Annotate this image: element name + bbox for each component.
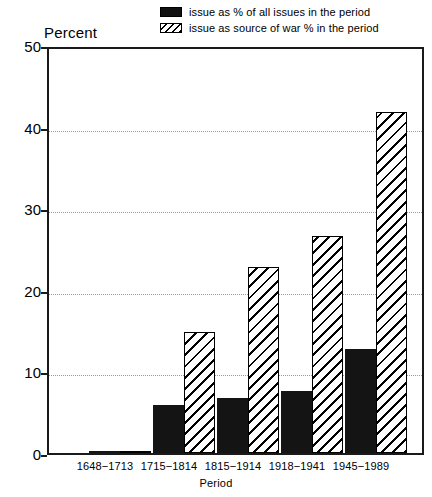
y-tick-label: 10 — [11, 364, 41, 381]
bar-solid-1815-1914 — [217, 398, 248, 453]
legend-entry-solid: issue as % of all issues in the period — [160, 4, 432, 19]
x-axis-tick-group: 1648−1713 1715−1814 1815−1914 1918−1941 … — [49, 460, 422, 476]
y-tick-label: 30 — [11, 201, 41, 218]
bar-solid-1918-1941 — [281, 391, 312, 453]
bar-hatched-1815-1914 — [248, 267, 279, 453]
y-tick-label: 0 — [11, 446, 41, 463]
x-tick-label-1: 1648−1713 — [75, 460, 135, 472]
bar-solid-1648-1713 — [89, 451, 120, 453]
bar-hatched-1945-1989 — [376, 112, 407, 453]
hatched-swatch-icon — [160, 23, 182, 33]
legend-label-solid: issue as % of all issues in the period — [189, 6, 370, 18]
chart-legend: issue as % of all issues in the period i… — [160, 4, 432, 36]
y-axis-tick-group: 50 40 30 20 10 0 — [5, 47, 41, 455]
y-tick-label: 40 — [11, 120, 41, 137]
y-axis-title: Percent — [44, 24, 97, 41]
x-tick-label-2: 1715−1814 — [139, 460, 199, 472]
y-tick-label: 20 — [11, 283, 41, 300]
x-axis-title: Period — [0, 477, 432, 489]
x-tick-label-5: 1945−1989 — [331, 460, 391, 472]
legend-entry-hatched: issue as source of war % in the period — [160, 20, 432, 35]
x-tick-label-4: 1918−1941 — [267, 460, 327, 472]
bar-solid-1715-1814 — [153, 405, 184, 453]
bar-solid-1945-1989 — [345, 349, 376, 453]
x-tick-label-3: 1815−1914 — [203, 460, 263, 472]
y-tick-mark — [41, 455, 47, 457]
bar-hatched-1918-1941 — [312, 236, 343, 453]
bar-hatched-1648-1713 — [120, 451, 151, 453]
bar-hatched-1715-1814 — [184, 332, 215, 453]
solid-swatch-icon — [160, 7, 182, 17]
y-tick-label: 50 — [11, 38, 41, 55]
legend-label-hatched: issue as source of war % in the period — [189, 22, 379, 34]
bar-group-container — [49, 47, 422, 453]
